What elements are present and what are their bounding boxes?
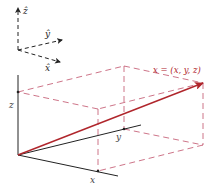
x-axis	[18, 155, 118, 176]
z-hat-label: ẑ	[22, 6, 28, 16]
y-axis	[18, 125, 141, 155]
vector-label: x = (x, y, z)	[153, 65, 201, 75]
position-vector	[18, 83, 203, 155]
axes	[18, 75, 141, 176]
x-axis-label: x	[90, 175, 95, 185]
z-axis-label: z	[8, 100, 14, 110]
axis-ticks	[17, 91, 126, 173]
z-tick	[17, 91, 20, 94]
x-hat-label: x̂	[45, 63, 50, 73]
y-tick	[123, 128, 126, 131]
x-hat-arrow	[18, 50, 60, 62]
y-hat-label: ŷ	[44, 29, 51, 39]
y-hat-arrow	[18, 40, 62, 50]
vector-diagram: ẑ ŷ x̂ z x y x = (x, y, z)	[0, 0, 220, 193]
unit-vectors	[18, 8, 62, 62]
y-axis-label: y	[115, 132, 122, 142]
x-tick	[97, 170, 100, 173]
